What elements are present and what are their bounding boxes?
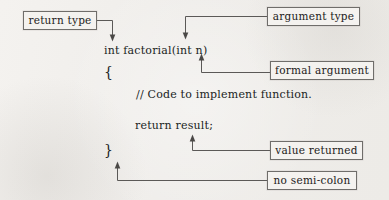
- callout-label-value-returned: value returned: [275, 145, 357, 156]
- connector-formal-argument: [202, 60, 271, 73]
- callout-box-formal-argument[interactable]: formal argument: [270, 61, 374, 80]
- callout-box-value-returned[interactable]: value returned: [270, 141, 363, 160]
- connector-value-returned: [193, 141, 271, 151]
- callout-label-formal-argument: formal argument: [275, 65, 369, 76]
- function-definition-diagram: return type argument type formal argumen…: [0, 0, 389, 200]
- arrowhead-argument-type: [183, 33, 189, 40]
- code-line-close-brace: }: [104, 143, 113, 157]
- connector-argument-type: [186, 17, 269, 34]
- arrowhead-value-returned: [190, 135, 196, 142]
- callout-label-argument-type: argument type: [273, 11, 355, 22]
- callout-box-argument-type[interactable]: argument type: [267, 7, 360, 26]
- callout-label-no-semicolon: no semi-colon: [274, 175, 351, 186]
- code-line-comment: // Code to implement function.: [136, 89, 312, 100]
- code-line-signature: int factorial(int n): [104, 45, 207, 56]
- callout-label-return-type: return type: [28, 15, 91, 26]
- arrowhead-no-semicolon: [115, 162, 121, 169]
- connector-no-semicolon: [118, 168, 269, 181]
- callout-box-return-type[interactable]: return type: [23, 11, 97, 30]
- arrowhead-return-type: [110, 35, 116, 42]
- callout-box-no-semicolon[interactable]: no semi-colon: [267, 171, 357, 190]
- code-line-open-brace: {: [104, 65, 113, 79]
- connector-return-type: [97, 21, 113, 37]
- code-line-return: return result;: [135, 120, 213, 131]
